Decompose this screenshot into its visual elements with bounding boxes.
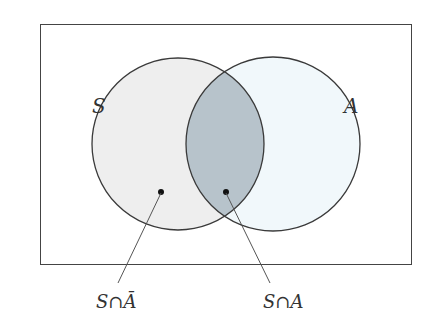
s-and-a-label: S∩A [263, 291, 303, 312]
set-a-label: A [342, 94, 358, 118]
s-not-a-label: S∩Ā [96, 290, 136, 312]
venn-diagram: S A S∩Ā S∩A [0, 0, 434, 333]
set-s-label: S [92, 94, 106, 118]
